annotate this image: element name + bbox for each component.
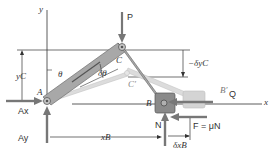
collar-b-prime — [183, 91, 205, 108]
yc-arrowhead-icon — [20, 50, 24, 55]
friction-label: F = μN — [193, 122, 220, 131]
reaction-n-label: N — [155, 121, 162, 130]
yc-label: yC — [16, 72, 26, 81]
xb-label: xB — [101, 133, 111, 142]
point-b-prime-label: B′ — [220, 86, 227, 95]
reaction-ay-label: Ay — [18, 134, 28, 143]
theta-label: θ — [58, 70, 62, 79]
point-a-label: A — [37, 88, 43, 97]
linkage-diagram: y P C θ δθ yC −δyC C′ A B B′ Q x Ax Ay N… — [0, 0, 273, 154]
force-q-label: Q — [229, 90, 236, 99]
force-p-label: P — [127, 13, 133, 22]
delta-theta-label: δθ — [98, 69, 107, 78]
force-p-arrowhead-icon — [118, 34, 126, 43]
delta-xb-label: δxB — [173, 141, 187, 150]
x-axis-label: x — [264, 98, 268, 107]
delta-yc-label: −δyC — [188, 59, 208, 68]
reaction-ax-label: Ax — [18, 107, 29, 116]
point-b-label: B — [146, 99, 152, 108]
link-ac — [43, 43, 126, 105]
diagram-graphics — [0, 0, 273, 154]
point-c-prime-label: C′ — [128, 80, 136, 89]
y-axis-label: y — [39, 5, 43, 14]
point-c-label: C — [116, 56, 122, 65]
